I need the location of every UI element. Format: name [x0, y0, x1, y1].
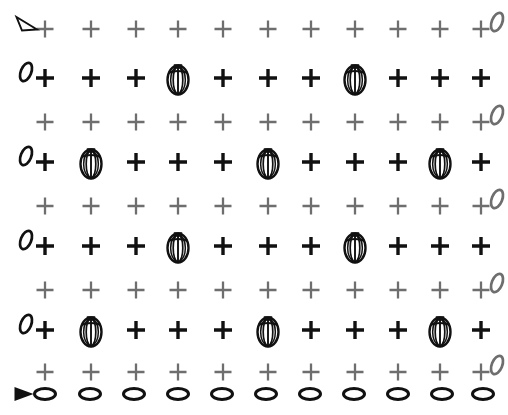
plus-marker-black [167, 151, 189, 173]
plus-marker-black [34, 151, 56, 173]
row-right-marker [486, 270, 508, 296]
flat-ellipse-marker [385, 386, 411, 402]
melon-lantern-marker [425, 142, 455, 182]
plus-marker-gray [126, 362, 146, 382]
plus-marker-gray [345, 19, 365, 39]
plus-marker-gray [213, 112, 233, 132]
plus-marker-black [125, 319, 147, 341]
plus-marker-black [470, 151, 492, 173]
plus-marker-gray [388, 196, 408, 216]
melon-lantern-marker [340, 58, 370, 98]
flat-ellipse-marker [297, 386, 323, 402]
plus-marker-gray [81, 112, 101, 132]
plus-marker-gray [301, 112, 321, 132]
melon-lantern-marker [340, 226, 370, 266]
plus-marker-gray [301, 196, 321, 216]
flat-ellipse-marker [470, 386, 496, 402]
plus-marker-black [212, 67, 234, 89]
plus-marker-gray [168, 19, 188, 39]
flat-ellipse-marker [429, 386, 455, 402]
plus-marker-black [300, 151, 322, 173]
melon-lantern-marker [163, 226, 193, 266]
plus-marker-black [212, 151, 234, 173]
flat-ellipse-marker [121, 386, 147, 402]
plus-marker-gray [81, 19, 101, 39]
plus-marker-gray [388, 362, 408, 382]
plus-marker-gray [81, 196, 101, 216]
plus-marker-gray [301, 280, 321, 300]
plus-marker-gray [213, 19, 233, 39]
plus-marker-black [387, 151, 409, 173]
plus-marker-black [212, 235, 234, 257]
plus-marker-black [300, 67, 322, 89]
plus-marker-black [125, 151, 147, 173]
plus-marker-gray [258, 112, 278, 132]
plus-marker-gray [388, 19, 408, 39]
plus-marker-gray [345, 280, 365, 300]
flat-ellipse-marker [209, 386, 235, 402]
plus-marker-gray [213, 280, 233, 300]
flat-ellipse-marker [77, 386, 103, 402]
plus-marker-black [429, 67, 451, 89]
plus-marker-black [34, 67, 56, 89]
plus-marker-gray [430, 19, 450, 39]
plus-marker-gray [345, 112, 365, 132]
row-left-marker [15, 14, 39, 32]
row-right-marker [486, 186, 508, 212]
row-left-marker [15, 311, 37, 337]
melon-lantern-marker [253, 310, 283, 350]
plus-marker-gray [213, 362, 233, 382]
plus-marker-black [344, 151, 366, 173]
plus-marker-gray [430, 112, 450, 132]
row-left-marker [15, 143, 37, 169]
plus-marker-gray [258, 362, 278, 382]
plus-marker-gray [35, 280, 55, 300]
plus-marker-black [257, 67, 279, 89]
symbol-grid-canvas [0, 0, 508, 415]
row-right-marker [486, 9, 508, 35]
plus-marker-black [344, 319, 366, 341]
plus-marker-gray [258, 280, 278, 300]
plus-marker-gray [430, 196, 450, 216]
plus-marker-black [125, 235, 147, 257]
row-right-marker [486, 352, 508, 378]
plus-marker-black [470, 235, 492, 257]
melon-lantern-marker [163, 58, 193, 98]
plus-marker-gray [126, 280, 146, 300]
melon-lantern-marker [253, 142, 283, 182]
plus-marker-gray [258, 196, 278, 216]
row-left-marker [15, 59, 37, 85]
plus-marker-black [257, 235, 279, 257]
plus-marker-black [387, 67, 409, 89]
plus-marker-black [300, 235, 322, 257]
plus-marker-gray [213, 196, 233, 216]
row-left-marker [13, 386, 35, 403]
plus-marker-black [429, 235, 451, 257]
plus-marker-black [387, 319, 409, 341]
plus-marker-gray [35, 112, 55, 132]
row-left-marker [15, 227, 37, 253]
plus-marker-gray [301, 362, 321, 382]
plus-marker-gray [345, 362, 365, 382]
plus-marker-black [80, 235, 102, 257]
plus-marker-gray [388, 112, 408, 132]
melon-lantern-marker [76, 142, 106, 182]
plus-marker-gray [301, 19, 321, 39]
plus-marker-black [300, 319, 322, 341]
plus-marker-gray [81, 280, 101, 300]
plus-marker-gray [168, 196, 188, 216]
plus-marker-gray [126, 19, 146, 39]
plus-marker-black [34, 235, 56, 257]
plus-marker-gray [388, 280, 408, 300]
plus-marker-gray [430, 362, 450, 382]
plus-marker-black [167, 319, 189, 341]
plus-marker-gray [345, 196, 365, 216]
plus-marker-gray [35, 362, 55, 382]
plus-marker-gray [430, 280, 450, 300]
flat-ellipse-marker [253, 386, 279, 402]
plus-marker-gray [35, 196, 55, 216]
plus-marker-black [34, 319, 56, 341]
flat-ellipse-marker [341, 386, 367, 402]
plus-marker-gray [168, 362, 188, 382]
plus-marker-black [470, 67, 492, 89]
